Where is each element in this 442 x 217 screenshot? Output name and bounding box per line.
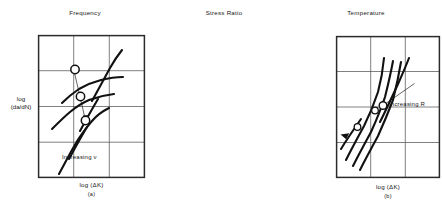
panel-title-frequency: Frequency <box>0 9 170 16</box>
figure-container: Frequency log (da/dN) <box>0 0 442 217</box>
panel-stress-ratio: Stress Ratio <box>150 0 298 217</box>
y-axis-label-line1: log <box>6 95 36 103</box>
y-axis-label-line2: (da/dN) <box>6 103 36 111</box>
x-axis-label-frequency: log (ΔK) <box>38 181 145 188</box>
panel-caption-a: (a) <box>38 191 145 197</box>
panel-temperature: Temperature <box>290 0 442 217</box>
panel-title-stress-ratio: Stress Ratio <box>150 9 298 16</box>
data-marker-low-frequency <box>81 116 89 124</box>
data-marker-mid-frequency <box>76 92 84 100</box>
curve-upper-branch <box>92 50 122 101</box>
panel-title-temperature: Temperature <box>290 9 442 16</box>
panel-frequency: Frequency log (da/dN) <box>0 0 170 217</box>
plot-area-frequency: Increasing ν <box>38 35 145 178</box>
y-axis-label: log (da/dN) <box>6 95 36 110</box>
data-marker-high-frequency <box>71 65 79 73</box>
annotation-increasing-frequency: Increasing ν <box>62 154 97 160</box>
